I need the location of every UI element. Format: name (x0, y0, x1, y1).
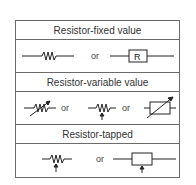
tapped-resistor-zigzag-icon (42, 155, 72, 172)
section-symbols-tapped: or (16, 144, 179, 177)
fixed-resistor-zigzag-icon (22, 52, 74, 60)
or-text: or (96, 154, 104, 164)
section-header-variable: Resistor-variable value (16, 73, 179, 92)
variable-resistor-box-icon (144, 97, 176, 118)
potentiometer-icon (88, 104, 116, 120)
or-text-1: or (61, 103, 69, 113)
section-symbols-fixed: or R (16, 40, 179, 73)
or-text-2: or (122, 103, 130, 113)
tapped-resistor-box-icon (113, 153, 176, 173)
fixed-resistor-box-icon (110, 50, 174, 62)
resistor-symbols-table: Resistor-fixed value or R Resistor-varia… (15, 20, 180, 178)
section-header-tapped: Resistor-tapped (16, 125, 179, 144)
section-header-fixed: Resistor-fixed value (16, 21, 179, 40)
or-text: or (91, 51, 99, 61)
section-symbols-variable: or or (16, 92, 179, 125)
box-label: R (134, 52, 141, 62)
variable-resistor-zigzag-icon (24, 101, 56, 116)
